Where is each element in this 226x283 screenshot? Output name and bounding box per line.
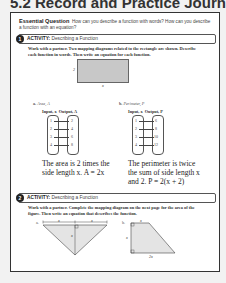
essential-question: Essential Question How can you describe … [19,18,214,31]
part-a-input: 4 [50,142,52,147]
part-b-output: 10 [154,134,158,139]
mapping-arrow [139,137,154,138]
mapping-arrow [139,129,154,130]
part-b-input: 2 [135,126,137,131]
page-title: 5.2 Record and Practice Journal [10,0,226,11]
activity-2-instructions: Work with a partner. Complete the mappin… [28,205,198,216]
essential-question-label: Essential Question [19,18,69,24]
activity-2-title: Describing a Function [51,195,97,200]
activity-2-header: 2 ACTIVITY: Describing a Function [18,193,216,203]
mapping-arrow [54,121,69,122]
trapezoid-side-label: x [126,235,128,240]
part-a-headers: Input, x Output, A [42,109,77,114]
part-a-output: 6 [71,134,73,139]
part-b-title: b. Perimeter, P [119,101,144,106]
trapezoid-top-label: x [140,218,142,223]
part-a-output: 2 [71,118,73,123]
part-a-title: a. Area, A [33,101,50,106]
part-a-answer: The area is 2 times the side length x. A… [42,159,110,177]
triangle-figure [41,219,111,259]
part-a-input: 3 [50,134,52,139]
mapping-arrow [54,145,69,146]
mapping-arrow [54,129,69,130]
part-b-input: 3 [135,134,137,139]
activity-1-number: 1 [16,35,24,43]
activity-1-label: ACTIVITY: [27,36,50,41]
part-b-input: 4 [135,142,137,147]
activity-1-instructions: Work with a partner. Two mapping diagram… [28,46,198,57]
triangle-left-label: x [58,218,60,223]
activity-2-label: ACTIVITY: [27,195,50,200]
part-b-output: 8 [155,126,157,131]
trapezoid-figure [129,221,179,257]
figure-a-letter: a. [36,220,39,225]
part-a-input: 1 [50,118,52,123]
mapping-arrow [54,137,69,138]
mapping-arrow [139,145,154,146]
part-b-output: 12 [154,142,158,147]
figure-b-letter: b. [122,220,125,225]
part-a-output: 4 [71,126,73,131]
activity-1-title: Describing a Function [51,36,97,41]
part-b-output: 6 [155,118,157,123]
part-b-input: 1 [135,118,137,123]
part-b-answer: The perimeter is twice the sum of side l… [128,159,200,186]
activity-2-number: 2 [16,194,24,202]
worksheet-page: Essential Question How can you describe … [10,12,220,272]
mapping-arrow [139,121,154,122]
rectangle-width-label: x [102,83,104,88]
trapezoid-bottom-label: 2x [149,254,153,259]
activity-1-header: 1 ACTIVITY: Describing a Function [18,34,216,44]
part-a-input: 2 [50,126,52,131]
part-a-output: 8 [71,142,73,147]
triangle-height-label: x [71,233,73,238]
triangle-right-label: x [91,218,93,223]
part-b-headers: Input, x Output, P [128,109,163,114]
rectangle-height-label: 2 [73,67,75,72]
rectangle-figure [77,59,129,83]
